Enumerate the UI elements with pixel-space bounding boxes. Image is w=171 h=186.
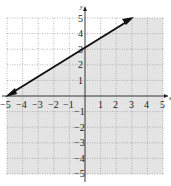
svg-text:−3: −3 [32, 99, 43, 110]
svg-text:5: 5 [160, 99, 165, 110]
svg-text:1: 1 [78, 75, 83, 86]
y-axis-arrow-icon [83, 6, 87, 11]
svg-text:4: 4 [78, 28, 83, 39]
svg-text:−2: −2 [48, 99, 59, 110]
svg-text:−4: −4 [74, 153, 85, 164]
svg-text:3: 3 [129, 99, 134, 110]
svg-text:−5: −5 [74, 168, 85, 179]
x-axis-arrow-icon [164, 94, 168, 98]
svg-text:−2: −2 [74, 122, 85, 133]
svg-text:−1: −1 [74, 106, 85, 117]
svg-text:−5: −5 [0, 99, 11, 110]
svg-text:2: 2 [78, 59, 83, 70]
y-axis-label: y [79, 4, 83, 10]
svg-text:−1: −1 [63, 99, 74, 110]
svg-text:−4: −4 [16, 99, 27, 110]
svg-text:3: 3 [78, 44, 83, 55]
graph: x y −5 −4 −3 −2 −1 1 2 3 4 5 5 4 3 2 1 −… [0, 0, 171, 186]
svg-text:5: 5 [78, 13, 83, 24]
svg-text:2: 2 [113, 99, 118, 110]
x-axis-label: x [168, 95, 171, 101]
svg-text:−3: −3 [74, 137, 85, 148]
svg-text:4: 4 [144, 99, 149, 110]
svg-text:1: 1 [98, 99, 103, 110]
